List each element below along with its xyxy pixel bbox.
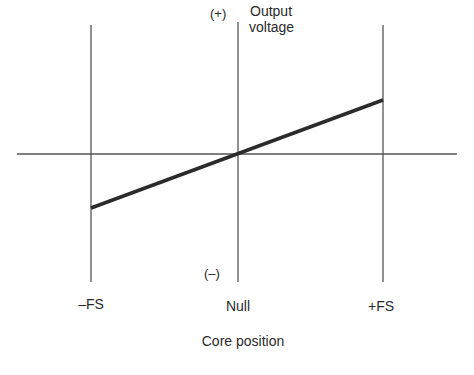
negative-marker: (–): [204, 266, 220, 281]
y-axis-label-line1: Output: [250, 3, 292, 19]
tick-label-null: Null: [226, 298, 250, 314]
tick-label-minus-fs: –FS: [78, 296, 104, 312]
tick-label-plus-fs: +FS: [368, 298, 394, 314]
x-axis-label: Core position: [202, 333, 285, 349]
diagram-canvas: [0, 0, 474, 375]
y-axis-label-line2: voltage: [249, 19, 294, 35]
positive-marker: (+): [210, 6, 226, 21]
